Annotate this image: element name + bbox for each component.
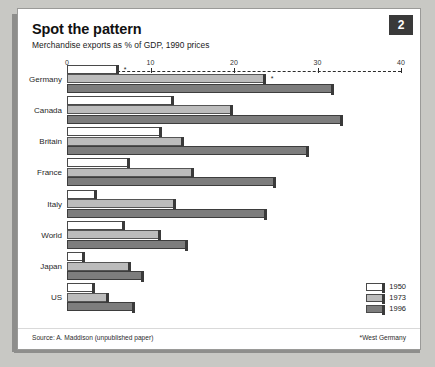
bar-france-1996 bbox=[67, 177, 276, 186]
bar-group: Canada bbox=[67, 94, 401, 125]
source-note: Source: A. Maddison (unpublished paper) bbox=[32, 334, 153, 341]
bar-us-1996 bbox=[67, 302, 135, 311]
bar-end-cap bbox=[331, 84, 334, 95]
bar-japan-1996 bbox=[67, 271, 144, 280]
legend-swatch bbox=[366, 294, 385, 302]
bar-end-cap bbox=[185, 240, 188, 251]
bar-italy-1996 bbox=[67, 209, 267, 218]
bar-germany-1950 bbox=[67, 65, 119, 74]
legend-swatch-cap bbox=[382, 294, 385, 304]
chart-card: 2 Spot the pattern Merchandise exports a… bbox=[17, 8, 421, 350]
west-germany-note: *West Germany bbox=[360, 334, 406, 341]
y-axis-category-label: Italy bbox=[47, 199, 62, 208]
legend-label: 1996 bbox=[389, 304, 406, 313]
bar-france-1950 bbox=[67, 158, 130, 167]
bar-end-cap bbox=[264, 209, 267, 220]
bar-group: Japan bbox=[67, 251, 401, 282]
footnote-asterisk: * bbox=[124, 65, 127, 74]
bar-world-1973 bbox=[67, 230, 161, 239]
bar-group: US bbox=[67, 282, 401, 313]
bar-canada-1973 bbox=[67, 105, 233, 114]
bar-canada-1996 bbox=[67, 115, 343, 124]
bar-chart-plot: Germany**CanadaBritainFranceItalyWorldJa… bbox=[67, 63, 401, 313]
bar-world-1996 bbox=[67, 240, 188, 249]
bar-us-1950 bbox=[67, 283, 95, 292]
bar-britain-1996 bbox=[67, 146, 309, 155]
bar-end-cap bbox=[306, 146, 309, 157]
legend-label: 1973 bbox=[389, 293, 406, 302]
legend-item: 1996 bbox=[366, 304, 406, 313]
bar-italy-1950 bbox=[67, 190, 97, 199]
footer-divider bbox=[18, 328, 420, 329]
bar-italy-1973 bbox=[67, 199, 176, 208]
bar-germany-1973 bbox=[67, 74, 266, 83]
x-tick-mark bbox=[401, 68, 402, 73]
bar-end-cap bbox=[132, 302, 135, 313]
chart-subtitle: Merchandise exports as % of GDP, 1990 pr… bbox=[32, 40, 210, 50]
y-axis-category-label: Canada bbox=[34, 105, 62, 114]
y-axis-category-label: Japan bbox=[40, 262, 62, 271]
bar-germany-1996 bbox=[67, 84, 334, 93]
y-axis-category-label: Germany bbox=[29, 74, 62, 83]
bar-us-1973 bbox=[67, 293, 109, 302]
y-axis-category-label: Britain bbox=[39, 137, 62, 146]
bar-britain-1950 bbox=[67, 127, 162, 136]
chart-number-badge: 2 bbox=[389, 15, 413, 35]
bar-group: Germany** bbox=[67, 63, 401, 94]
bar-end-cap bbox=[273, 177, 276, 188]
screenshot-root: 2 Spot the pattern Merchandise exports a… bbox=[0, 0, 435, 367]
y-axis-category-label: France bbox=[37, 168, 62, 177]
bar-group: World bbox=[67, 219, 401, 250]
footnote-asterisk: * bbox=[271, 74, 274, 83]
chart-legend: 195019731996 bbox=[366, 282, 406, 315]
legend-swatch bbox=[366, 305, 385, 313]
bar-group: France bbox=[67, 157, 401, 188]
bar-canada-1950 bbox=[67, 96, 174, 105]
legend-swatch-cap bbox=[382, 283, 385, 293]
bar-world-1950 bbox=[67, 221, 125, 230]
legend-item: 1950 bbox=[366, 282, 406, 291]
page-title: Spot the pattern bbox=[32, 21, 142, 37]
bar-france-1973 bbox=[67, 168, 194, 177]
bar-group: Italy bbox=[67, 188, 401, 219]
legend-swatch-cap bbox=[382, 305, 385, 315]
bar-end-cap bbox=[340, 115, 343, 126]
legend-swatch bbox=[366, 283, 385, 291]
legend-label: 1950 bbox=[389, 282, 406, 291]
bar-group: Britain bbox=[67, 126, 401, 157]
bar-japan-1973 bbox=[67, 262, 131, 271]
bar-end-cap bbox=[141, 271, 144, 282]
y-axis-category-label: World bbox=[41, 230, 62, 239]
y-axis-category-label: US bbox=[51, 293, 62, 302]
legend-item: 1973 bbox=[366, 293, 406, 302]
bar-japan-1950 bbox=[67, 252, 85, 261]
bar-britain-1973 bbox=[67, 137, 184, 146]
